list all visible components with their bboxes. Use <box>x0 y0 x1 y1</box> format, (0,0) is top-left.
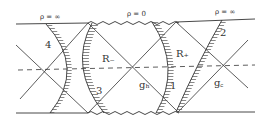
top-singularity-wavy <box>88 22 179 25</box>
label-curve-2: 2 <box>220 27 226 38</box>
label-curve-1: 1 <box>170 80 176 91</box>
label-rho-zero: ρ = 0 <box>127 10 146 18</box>
label-curve-4: 4 <box>45 39 51 50</box>
label-g-c: g꜀ <box>214 77 224 88</box>
curve-3 <box>82 23 110 113</box>
penrose-diagram: ρ = ∞ ρ = 0 ρ = ∞ 4 3 1 2 R₋ R₊ gₕ g꜀ <box>0 0 267 125</box>
label-rho-infinity-left: ρ = ∞ <box>40 13 60 21</box>
label-curve-3: 3 <box>96 85 102 96</box>
label-g-h: gₕ <box>139 79 150 90</box>
label-r-plus: R₊ <box>176 48 189 59</box>
curve-4 <box>46 24 72 113</box>
bottom-singularity-wavy <box>88 112 179 115</box>
label-rho-infinity-right: ρ = ∞ <box>215 8 235 16</box>
label-r-minus: R₋ <box>102 53 115 64</box>
